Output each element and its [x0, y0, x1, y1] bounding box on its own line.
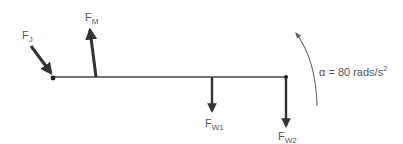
force-m-arrow: [90, 30, 96, 77]
angular-acceleration-label: α = 80 rads/s2: [319, 65, 387, 78]
force-j-label: FJ: [22, 30, 33, 44]
force-m-label: FM: [85, 12, 98, 26]
angular-acceleration-arrow: [296, 33, 317, 106]
force-w2-label: FW2: [278, 131, 297, 144]
joint-dot: [51, 76, 56, 81]
force-w1-label: FW1: [205, 118, 224, 132]
w2-end-dot: [284, 75, 288, 79]
force-j-arrow: [31, 46, 51, 73]
